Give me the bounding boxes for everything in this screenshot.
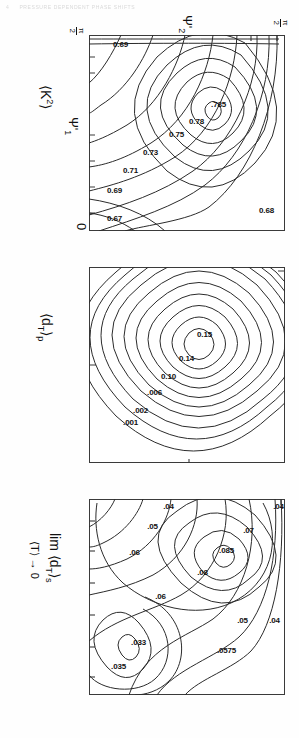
contour-label: .002 <box>133 406 148 415</box>
page-number: 4 <box>6 4 9 10</box>
contour-label: .006 <box>147 388 162 397</box>
contour-label: .04 <box>163 502 174 511</box>
contour-label: 0.69 <box>107 186 122 195</box>
contour-label: 0.68 <box>259 206 274 215</box>
contour-label: .0575 <box>216 646 235 655</box>
x-tick-label-low: π2 <box>68 27 85 35</box>
x-tick-label-high: 0 <box>74 223 89 230</box>
contour-label: 0.75 <box>169 130 184 139</box>
panel-title-k2: ⟨K2⟩ <box>38 85 55 109</box>
contour-plot-dtp <box>89 267 285 463</box>
contour-label: .06 <box>129 548 140 557</box>
contour-label: .04 <box>269 616 280 625</box>
contour-plot-k2 <box>89 35 285 231</box>
y-tick-label-high: π2 <box>272 19 289 27</box>
panel-title-dts-limit: lim ⟨dT⟩s <box>44 533 63 583</box>
contour-label: 0.10 <box>161 372 176 381</box>
figure-rotated-wrapper: .785 0.78 0.75 0.73 0.71 0.69 0.69 0.68 … <box>9 13 291 725</box>
panel-title-dtp: ⟨dT⟩p <box>36 313 55 341</box>
contour-label: 0.67 <box>107 214 122 223</box>
panel-title-dts-limit-condition: ⟨T⟩ → 0 <box>28 541 41 579</box>
contour-panel-k2: .785 0.78 0.75 0.73 0.71 0.69 0.69 0.68 … <box>89 35 285 231</box>
contour-label: .05 <box>237 616 248 625</box>
y-axis-label-psi2: Ψ'2 <box>177 15 195 33</box>
contour-panel-dts-limit: .04 .07 .085 .08 .06 .05 .0575 .04 .04 .… <box>89 499 285 695</box>
contour-label: .785 <box>211 100 226 109</box>
contour-label: .001 <box>123 418 138 427</box>
contour-label: .05 <box>147 522 158 531</box>
running-header-text: PRESSURE DEPENDENT PHASE SHIFTS <box>19 4 135 10</box>
contour-label: .035 <box>111 662 126 671</box>
contour-label: .06 <box>155 592 166 601</box>
figure: .785 0.78 0.75 0.73 0.71 0.69 0.69 0.68 … <box>9 13 291 725</box>
contour-label: .04 <box>273 502 284 511</box>
contour-label: 0.71 <box>123 166 138 175</box>
contour-label: .07 <box>243 526 254 535</box>
contour-label: .033 <box>131 638 146 647</box>
contour-label: 0.69 <box>113 40 128 49</box>
contour-panel-dtp: 0.15 0.14 0.10 .006 .002 .001 <box>89 267 285 463</box>
contour-label: 0.15 <box>197 330 212 339</box>
contour-label: .08 <box>197 568 208 577</box>
running-header: 4 PRESSURE DEPENDENT PHASE SHIFTS <box>0 0 299 14</box>
x-axis-label-psi1: Ψ'1 <box>63 117 81 135</box>
contour-label: 0.73 <box>143 148 158 157</box>
contour-label: 0.14 <box>179 354 194 363</box>
contour-label: 0.78 <box>189 117 204 126</box>
contour-label: .085 <box>219 546 234 555</box>
